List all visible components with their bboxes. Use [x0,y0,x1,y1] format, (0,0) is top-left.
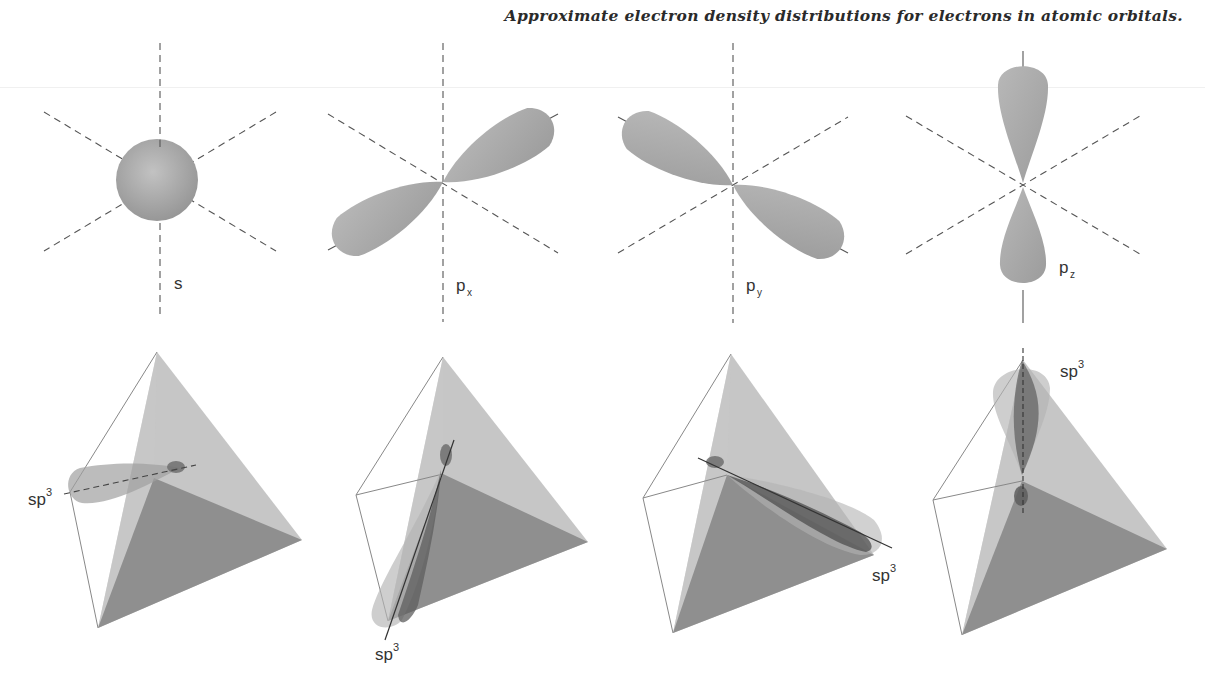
sp3-tetrahedron-1: sp 3 [28,352,302,628]
s-label: s [174,274,183,293]
sp3-sup-4: 3 [1078,358,1084,370]
sp3-label-4: sp [1060,362,1078,381]
px-orbital: p x [323,43,563,322]
py-subscript: y [757,287,762,298]
sp3-label-3: sp [872,566,890,585]
pz-subscript: z [1070,269,1075,280]
sp3-label-1: sp [28,490,46,509]
s-orbital: s [44,43,276,318]
py-label: p [746,276,755,295]
py-orbital: p y [613,43,853,323]
pz-label: p [1059,258,1068,277]
sp3-tetrahedron-2: sp 3 [356,357,588,664]
sp3-sup-1: 3 [46,486,52,498]
sp3-label-2: sp [375,645,393,664]
px-label: p [456,276,465,295]
sp3-sup-3: 3 [890,562,896,574]
sp3-tetrahedron-3: sp 3 [643,354,896,633]
s-sphere-icon [116,139,198,221]
sp3-sup-2: 3 [393,641,399,653]
px-subscript: x [467,287,472,298]
sp3-tetrahedron-4: sp 3 [933,348,1167,635]
pz-orbital: p z [906,51,1140,323]
orbital-diagram: s p x p y [0,0,1205,681]
